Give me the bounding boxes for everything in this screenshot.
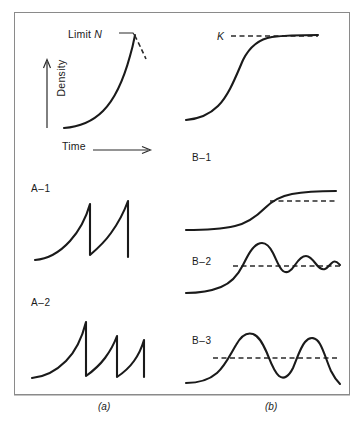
figure-root: Density Time Limit N K A–1 A–2 B–1 B–2 B… [0,0,364,423]
limit-text: Limit [68,28,91,40]
panel-b-top-group [186,35,318,120]
panel-a1-group [35,201,128,260]
subpanel-label-b2: B–2 [192,256,212,267]
subpanel-label-b3: B–3 [192,335,212,346]
curve-b2 [186,243,340,293]
caption-panel-b: (b) [265,401,277,412]
curve-b1 [186,191,336,230]
curve-a2 [32,322,144,378]
carrying-capacity-annotation: K [217,30,224,42]
panel-b1-group [186,191,336,230]
curve-a1 [35,201,128,260]
subpanel-label-b1: B–1 [192,152,212,163]
caption-panel-a: (a) [98,401,110,412]
curve-b-top [186,35,318,120]
y-axis-label: Density [55,43,67,113]
panel-a2-group [32,322,144,378]
limit-symbol: N [94,28,102,40]
subpanel-label-a2: A–2 [31,297,51,308]
time-axis-arrow [93,147,151,154]
x-axis-label: Time [62,140,86,152]
density-axis-arrow [44,60,51,129]
limit-n-annotation: Limit N [68,28,102,40]
curve-a-top-dashed-tail [135,36,146,59]
panel-b2-group [186,243,340,293]
limit-leader-line [119,33,135,36]
subpanel-label-a1: A–1 [31,183,51,194]
curve-a-top [64,35,135,128]
